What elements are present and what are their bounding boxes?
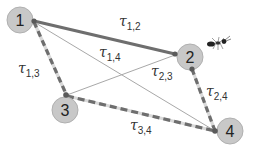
node-4: 4	[217, 118, 243, 144]
edge-label-3-4: τ3,4	[130, 117, 152, 136]
node-2: 2	[177, 44, 203, 70]
edge-label-1-4: τ1,4	[99, 44, 121, 63]
pheromone-graph: 1 2 3 4 τ1,2 τ1,3 τ1,4 τ2,3 τ2,4 τ3,4	[0, 0, 253, 153]
edge-label-2-3: τ2,3	[151, 63, 173, 82]
edge-label-1-3: τ1,3	[18, 60, 40, 79]
edge-label-2-4: τ2,4	[206, 83, 228, 102]
edge-2-4	[192, 69, 215, 131]
node-3: 3	[52, 97, 78, 123]
node-label: 2	[186, 49, 195, 66]
ant-icon	[207, 36, 231, 50]
edge-label-1-2: τ1,2	[119, 13, 141, 32]
edge-1-3	[34, 22, 66, 94]
node-label: 4	[226, 123, 235, 140]
node-label: 1	[16, 12, 25, 29]
node-1: 1	[7, 7, 33, 33]
node-label: 3	[61, 102, 70, 119]
